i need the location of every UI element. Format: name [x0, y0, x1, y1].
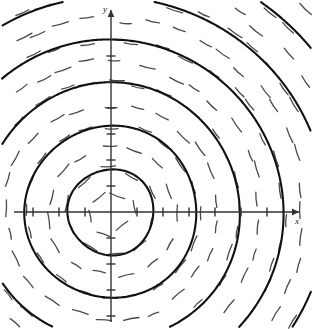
slope-field-segments — [4, 3, 311, 328]
integral-curve-circles — [2, 2, 311, 327]
direction-field-figure: x y — [0, 0, 313, 329]
x-axis-label: x — [294, 216, 299, 226]
y-axis-label: y — [102, 4, 107, 14]
direction-field-plot: x y — [0, 0, 313, 329]
